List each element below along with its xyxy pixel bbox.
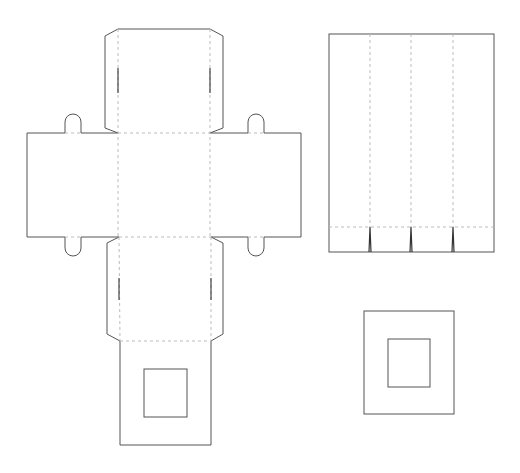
box-net	[27, 29, 301, 445]
frame-outline	[364, 311, 454, 414]
notch-cut	[452, 227, 454, 252]
notch-cut	[410, 227, 412, 252]
notch-cut	[369, 227, 371, 252]
box-template-diagram	[0, 0, 520, 473]
window-cutout	[144, 369, 187, 417]
frame-window-cutout	[388, 339, 430, 387]
sleeve-strip	[329, 34, 494, 252]
window-frame	[364, 311, 454, 414]
